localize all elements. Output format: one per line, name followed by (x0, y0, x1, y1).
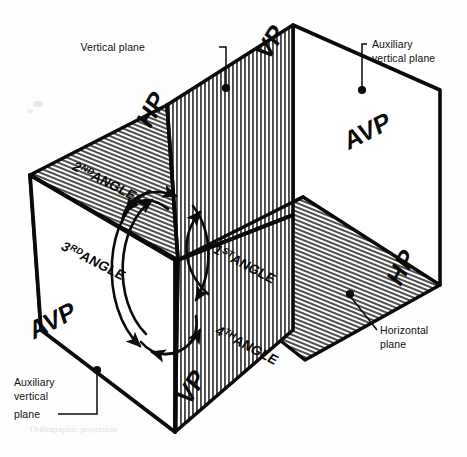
caption-smudge: Orthographic projection (30, 424, 117, 434)
projection-quadrants-figure: VP VP HP HP AVP AVP 1STANGLE 2NDANGLE (0, 0, 467, 457)
scan-speck (27, 101, 43, 113)
callout-dot (358, 86, 366, 94)
callout-label-line2: vertical (14, 390, 48, 402)
leader-line (58, 372, 97, 414)
callout-auxiliary-vertical-plane-bottom: Auxiliary vertical plane (14, 366, 101, 420)
callout-label-line2: vertical plane (372, 52, 435, 64)
callout-dot (346, 290, 354, 298)
caption-text: Orthographic projection (30, 424, 117, 434)
callout-dot (222, 84, 230, 92)
callout-label: Vertical plane (81, 41, 146, 53)
callout-label-line1: Auxiliary (14, 376, 55, 388)
callout-label-line3: plane (14, 408, 40, 420)
callout-label-line1: Horizontal (380, 324, 428, 336)
callout-label-line1: Auxiliary (372, 38, 413, 50)
callout-dot (93, 366, 101, 374)
callout-label-line2: plane (380, 338, 406, 350)
projection-diagram: VP VP HP HP AVP AVP 1STANGLE 2NDANGLE (0, 0, 467, 457)
